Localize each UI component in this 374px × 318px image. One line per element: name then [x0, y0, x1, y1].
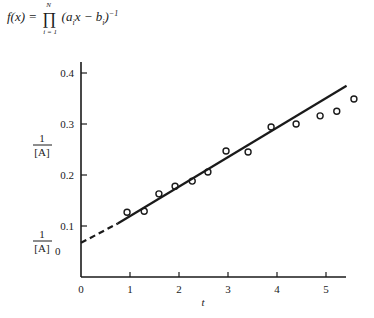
x-tick-label: 2: [176, 283, 182, 295]
fit-line: [118, 86, 347, 224]
x-tick-label: 4: [274, 283, 280, 295]
data-point: [141, 208, 147, 214]
data-point: [351, 96, 357, 102]
svg-text:[A]: [A]: [34, 242, 49, 254]
x-tick-label: 0: [78, 283, 84, 295]
x-axis-title: t: [201, 296, 205, 308]
y-tick-label: 0.1: [60, 220, 74, 232]
svg-text:1: 1: [39, 228, 45, 240]
scatter-chart: 0123450.10.20.30.4 1 [A] 1 [A] 0 t: [0, 0, 374, 318]
data-point: [245, 149, 251, 155]
data-point: [124, 209, 130, 215]
svg-text:1: 1: [39, 132, 45, 144]
x-tick-label: 1: [127, 283, 133, 295]
data-point: [156, 191, 162, 197]
y-tick-label: 0.3: [60, 118, 74, 130]
data-points: [124, 96, 357, 215]
data-point: [334, 108, 340, 114]
svg-text:[A]: [A]: [34, 146, 49, 158]
fit-lines: [81, 86, 347, 243]
y-intercept-label: 1 [A] 0: [33, 228, 61, 257]
data-point: [268, 124, 274, 130]
axis-labels: 1 [A] 1 [A] 0 t: [33, 132, 205, 308]
data-point: [223, 148, 229, 154]
data-point: [317, 113, 323, 119]
x-tick-label: 5: [323, 283, 329, 295]
data-point: [293, 121, 299, 127]
y-tick-label: 0.4: [60, 67, 74, 79]
axes: 0123450.10.20.30.4: [60, 62, 346, 295]
y-tick-label: 0.2: [60, 169, 74, 181]
svg-text:0: 0: [55, 245, 61, 257]
x-tick-label: 3: [225, 283, 231, 295]
y-axis-title: 1 [A]: [33, 132, 52, 158]
